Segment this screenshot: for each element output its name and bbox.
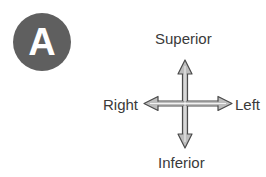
four-way-arrow-icon bbox=[0, 0, 266, 177]
